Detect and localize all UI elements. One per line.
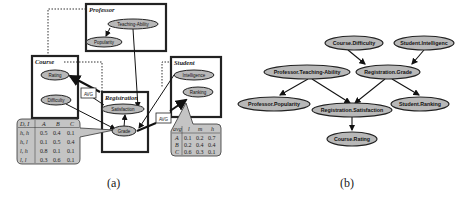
svg-text:avg: avg <box>173 126 182 132</box>
svg-text:Registration.Satisfaction: Registration.Satisfaction <box>321 107 383 113</box>
svg-text:0.7: 0.7 <box>208 135 216 141</box>
svg-text:0.4: 0.4 <box>67 139 75 145</box>
svg-text:Student.Intelligenc: Student.Intelligenc <box>400 40 447 46</box>
course-class-box <box>32 56 78 118</box>
grade-cpt-callout <box>17 119 114 164</box>
svg-text:Difficulty: Difficulty <box>48 98 66 103</box>
svg-text:Rating: Rating <box>48 73 62 78</box>
figure: Professor Course Registration Student AV… <box>0 0 467 197</box>
svg-text:0.3: 0.3 <box>196 149 204 155</box>
svg-text:0.1: 0.1 <box>184 135 192 141</box>
svg-text:0.1: 0.1 <box>40 139 48 145</box>
svg-text:Professor.Popularity: Professor.Popularity <box>248 101 300 107</box>
svg-text:D, I: D, I <box>19 121 30 127</box>
svg-text:0.6: 0.6 <box>53 157 61 163</box>
svg-text:0.1: 0.1 <box>67 148 75 154</box>
avg-aggregator-1: AVG <box>81 88 96 98</box>
course-class-label: Course <box>35 58 54 65</box>
avg-aggregator-2: AVG <box>156 113 171 123</box>
professor-class-label: Professor <box>89 6 115 13</box>
edge-difficulty-grade-b <box>348 50 365 64</box>
svg-text:Course.Difficulty: Course.Difficulty <box>333 40 375 46</box>
panel-a: Professor Course Registration Student AV… <box>17 4 221 164</box>
svg-text:AVG: AVG <box>84 92 94 97</box>
edge-teaching-popularity-b <box>280 79 308 95</box>
svg-text:0.4: 0.4 <box>53 130 61 136</box>
svg-text:h, h: h, h <box>20 130 29 136</box>
svg-text:Student.Ranking: Student.Ranking <box>399 101 441 107</box>
registration-class-box <box>102 92 148 152</box>
student-class-label: Student <box>174 59 195 66</box>
caption-b: (b) <box>340 176 354 191</box>
svg-text:0.3: 0.3 <box>40 157 48 163</box>
svg-text:0.2: 0.2 <box>196 135 204 141</box>
svg-text:Professor.Teaching-Ability: Professor.Teaching-Ability <box>274 69 341 75</box>
svg-text:A: A <box>174 135 179 141</box>
edge-teaching-popularity <box>106 28 110 36</box>
svg-text:Registration.Grade: Registration.Grade <box>364 69 412 75</box>
svg-text:A: A <box>41 121 46 127</box>
svg-text:0.1: 0.1 <box>67 157 75 163</box>
svg-text:Satisfaction: Satisfaction <box>111 107 135 112</box>
svg-text:0.5: 0.5 <box>40 130 48 136</box>
panel-b: Course.Difficulty Student.Intelligenc Pr… <box>238 36 454 146</box>
svg-text:0.8: 0.8 <box>40 148 48 154</box>
svg-text:Course.Rating: Course.Rating <box>334 136 370 142</box>
svg-text:h: h <box>211 126 214 132</box>
edge-teaching-satisfaction-b <box>312 79 350 103</box>
svg-text:0.5: 0.5 <box>53 139 61 145</box>
registration-class-label: Registration <box>104 94 138 101</box>
svg-text:0.1: 0.1 <box>53 148 61 154</box>
svg-text:Popularity: Popularity <box>94 40 115 45</box>
svg-text:AVG: AVG <box>159 117 169 122</box>
svg-text:B: B <box>175 142 179 148</box>
svg-text:h, l: h, l <box>20 139 28 145</box>
svg-text:0.1: 0.1 <box>67 130 75 136</box>
edge-grade-satisfaction <box>124 115 125 127</box>
caption-a: (a) <box>107 176 120 191</box>
svg-text:Grade: Grade <box>118 129 131 134</box>
edge-grade-ranking-b <box>392 79 419 95</box>
svg-text:Ranking: Ranking <box>190 90 207 95</box>
edge-intelligence-grade-b <box>412 50 424 64</box>
svg-text:l, l: l, l <box>20 157 27 163</box>
edge-grade-satisfaction-b <box>355 79 385 103</box>
svg-text:0.6: 0.6 <box>184 149 192 155</box>
svg-text:Intelligence: Intelligence <box>183 73 206 78</box>
svg-text:Teaching-Ability: Teaching-Ability <box>117 22 149 27</box>
svg-text:l, h: l, h <box>20 148 28 154</box>
svg-text:m: m <box>198 126 203 132</box>
svg-text:0.4: 0.4 <box>208 142 216 148</box>
svg-text:B: B <box>56 121 60 127</box>
svg-text:0.2: 0.2 <box>184 142 192 148</box>
svg-text:0.1: 0.1 <box>208 149 216 155</box>
svg-text:0.4: 0.4 <box>196 142 204 148</box>
